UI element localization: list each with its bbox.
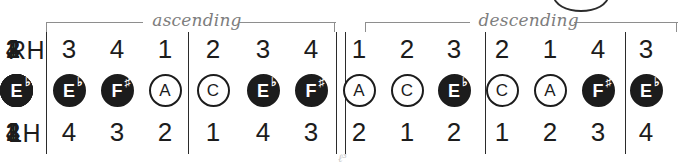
fingering-chart: ascendingdescending RH LH 3E♭44F♯31A22C1… <box>0 0 694 168</box>
right-hand-finger: 2 <box>394 34 420 65</box>
right-hand-finger: 3 <box>56 34 82 65</box>
note-accidental: ♭ <box>77 76 83 88</box>
note-letter: F♯ <box>112 82 123 100</box>
left-hand-finger: 3 <box>585 117 611 148</box>
note-circle: E♭ <box>630 74 663 107</box>
note-circle: E♭ <box>438 74 471 107</box>
note-letter: E♭ <box>257 82 269 100</box>
note-circle: C <box>391 74 424 107</box>
right-hand-finger: 4 <box>585 34 611 65</box>
note-circle: A <box>534 74 567 107</box>
left-hand-finger: 4 <box>250 117 276 148</box>
barline <box>336 32 337 154</box>
bracket-arm-right <box>239 22 336 23</box>
left-hand-finger: 2 <box>537 117 563 148</box>
bracket-arm-right <box>574 22 679 23</box>
page-artifact: ℓ³ <box>338 152 347 165</box>
note-letter: E♭ <box>640 82 652 100</box>
left-hand-finger: 1 <box>489 117 515 148</box>
left-hand-finger: 3 <box>298 117 324 148</box>
right-hand-finger: 2 <box>489 34 515 65</box>
left-hand-finger: 3 <box>104 117 130 148</box>
right-hand-finger: 3 <box>633 34 659 65</box>
barline <box>625 32 626 154</box>
barline <box>46 32 47 154</box>
left-hand-finger: 1 <box>200 117 226 148</box>
left-hand-finger: 4 <box>0 117 26 148</box>
bracket-tick-left <box>46 22 47 32</box>
note-letter: C <box>207 82 219 99</box>
barline <box>188 32 189 154</box>
note-circle: F♯ <box>101 74 134 107</box>
note-circle: C <box>197 74 230 107</box>
left-hand-finger: 2 <box>152 117 178 148</box>
left-hand-finger: 1 <box>394 117 420 148</box>
note-accidental: ♭ <box>271 76 277 88</box>
right-hand-finger: 1 <box>152 34 178 65</box>
right-hand-finger: 3 <box>0 34 26 65</box>
note-letter: F♯ <box>593 82 604 100</box>
left-hand-finger: 4 <box>56 117 82 148</box>
note-letter: E♭ <box>448 82 460 100</box>
bracket-tick-right <box>676 22 677 32</box>
note-circle: A <box>149 74 182 107</box>
bracket-tick-right <box>334 22 335 32</box>
bracket-ascending: ascending <box>46 14 336 32</box>
right-hand-finger: 1 <box>346 34 372 65</box>
left-hand-finger: 2 <box>346 117 372 148</box>
note-circle: F♯ <box>295 74 328 107</box>
note-accidental: ♯ <box>125 76 131 88</box>
note-accidental: ♯ <box>319 76 325 88</box>
note-accidental: ♭ <box>654 76 660 88</box>
right-hand-finger: 3 <box>250 34 276 65</box>
right-hand-finger: 4 <box>298 34 324 65</box>
bracket-tick-left <box>365 22 366 32</box>
note-letter: C <box>496 82 508 99</box>
note-circle: E♭ <box>53 74 86 107</box>
note-letter: A <box>353 82 364 99</box>
note-letter: E♭ <box>10 82 22 100</box>
note-circle: F♯ <box>582 74 615 107</box>
note-accidental: ♭ <box>462 76 468 88</box>
note-circle: E♭ <box>247 74 280 107</box>
right-hand-finger: 4 <box>104 34 130 65</box>
bracket-arm-left <box>46 22 143 23</box>
note-letter: A <box>544 82 555 99</box>
note-circle: A <box>343 74 376 107</box>
bracket-label: descending <box>479 10 579 30</box>
note-letter: A <box>159 82 170 99</box>
right-hand-finger: 3 <box>441 34 467 65</box>
right-hand-finger: 2 <box>200 34 226 65</box>
left-hand-finger: 4 <box>633 117 659 148</box>
note-accidental: ♭ <box>25 76 31 88</box>
bracket-descending: descending <box>365 14 678 32</box>
bracket-arm-left <box>365 22 470 23</box>
note-letter: C <box>401 82 413 99</box>
note-accidental: ♯ <box>606 76 612 88</box>
note-circle: E♭ <box>0 74 33 107</box>
note-circle: C <box>486 74 519 107</box>
note-letter: F♯ <box>306 82 317 100</box>
right-hand-finger: 1 <box>537 34 563 65</box>
left-hand-finger: 2 <box>441 117 467 148</box>
bracket-label: ascending <box>152 10 241 30</box>
note-letter: E♭ <box>63 82 75 100</box>
